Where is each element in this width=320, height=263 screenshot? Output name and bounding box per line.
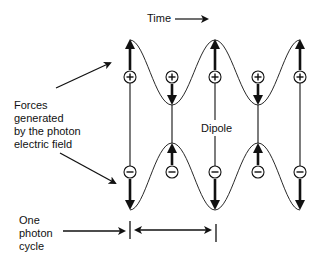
force-pointer-arrow-top — [56, 63, 110, 88]
dipole-column-5 — [294, 44, 306, 205]
forces-label-line-3: by the photon — [14, 125, 81, 138]
cycle-label-line-1: One — [19, 214, 53, 227]
forces-label-line-2: generated — [14, 112, 81, 125]
forces-label-line-1: Forces — [14, 99, 81, 112]
dipole-column-1 — [124, 44, 136, 205]
cycle-label-line-2: photon — [19, 227, 53, 240]
dipole-column-4 — [252, 71, 264, 178]
dipole-label: Dipole — [200, 122, 233, 135]
dipole-column-2 — [166, 71, 178, 178]
time-label: Time — [147, 12, 171, 25]
cycle-label-line-3: cycle — [19, 240, 53, 253]
force-pointer-arrow-bottom — [60, 153, 115, 183]
cycle-label: One photon cycle — [19, 214, 53, 253]
forces-label: Forces generated by the photon electric … — [14, 99, 81, 151]
forces-label-line-4: electric field — [14, 138, 81, 151]
